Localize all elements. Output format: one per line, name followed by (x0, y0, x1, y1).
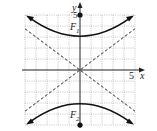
focus-point-f1 (77, 12, 82, 17)
y-axis-arrow-icon (78, 2, 83, 8)
x-axis-label: x (139, 70, 145, 81)
focus2-label: F2 (69, 109, 80, 123)
focus-point-f2 (77, 122, 82, 127)
y-tick-label: 5 (73, 10, 78, 20)
x-tick-label: 5 (129, 70, 134, 81)
hyperbola-chart: y x 5 5 F1 F2 (0, 0, 157, 131)
focus1-label: F1 (69, 21, 80, 35)
